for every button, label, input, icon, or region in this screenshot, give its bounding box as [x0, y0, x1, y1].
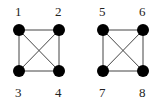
node-label-2: 2	[55, 4, 62, 19]
graph-right: 5678	[97, 4, 149, 100]
node-3	[13, 65, 25, 77]
node-1	[13, 24, 25, 36]
node-label-4: 4	[55, 85, 62, 100]
node-label-8: 8	[139, 85, 146, 100]
node-5	[97, 24, 109, 36]
node-label-3: 3	[15, 85, 22, 100]
node-8	[137, 65, 149, 77]
node-label-5: 5	[99, 4, 106, 19]
node-7	[97, 65, 109, 77]
node-label-1: 1	[15, 4, 22, 19]
graph-diagram: 12345678	[0, 0, 160, 106]
graph-left: 1234	[13, 4, 65, 100]
node-6	[137, 24, 149, 36]
node-4	[53, 65, 65, 77]
node-label-6: 6	[139, 4, 146, 19]
node-label-7: 7	[99, 85, 106, 100]
node-2	[53, 24, 65, 36]
